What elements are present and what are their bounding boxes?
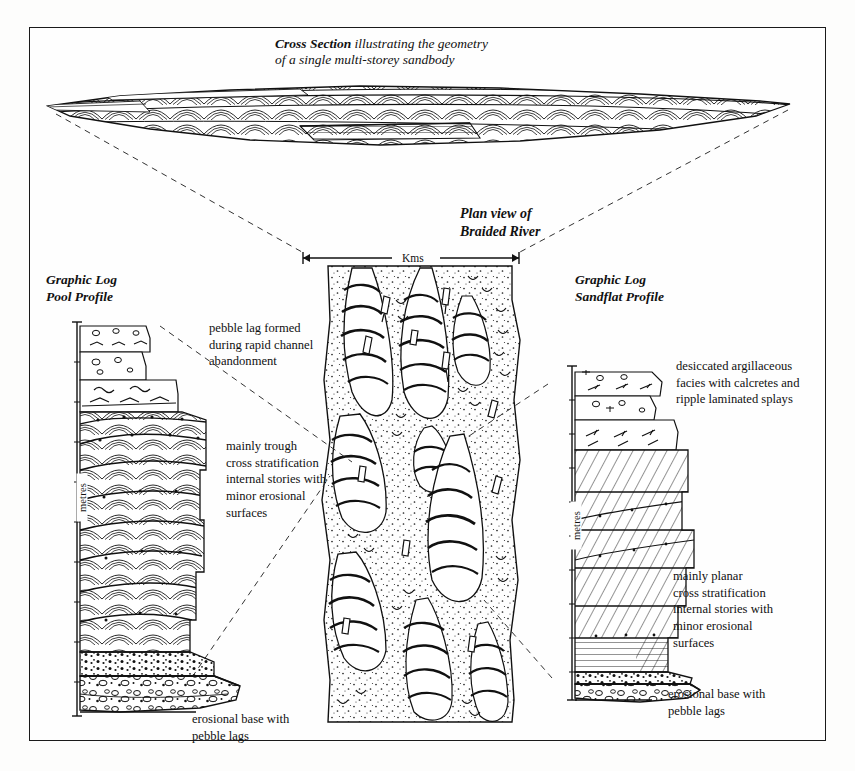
cross-section-title-line2: of a single multi-storey sandbody: [275, 52, 454, 67]
right-log-title: Graphic Log Sandflat Profile: [575, 272, 735, 306]
flow-symbol: [468, 636, 476, 652]
annotation-line: surfaces: [226, 506, 267, 520]
annotation-line: facies with calcretes and: [676, 376, 799, 390]
left-basal-conglomerate: [80, 676, 240, 712]
annotation-line: internal stories with: [226, 472, 326, 486]
flow-symbol: [402, 540, 410, 556]
left-log-title-line1: Graphic Log: [46, 272, 117, 287]
annotation-line: erosional base with: [192, 712, 289, 726]
annotation-left-erosional-base: erosional base with pebble lags: [192, 711, 352, 744]
figure-canvas: Cross Section illustrating the geometry …: [0, 0, 855, 771]
annotation-trough-cross-stratification: mainly trough cross stratification inter…: [226, 438, 361, 522]
right-log-title-line2: Sandflat Profile: [575, 289, 664, 304]
annotation-desiccated-argillaceous: desiccated argillaceous facies with calc…: [676, 358, 846, 408]
annotation-line: mainly planar: [673, 569, 743, 583]
annotation-line: pebble lag formed: [209, 321, 301, 335]
flow-symbol: [410, 330, 418, 345]
annotation-line: surfaces: [673, 636, 714, 650]
cross-section-title-emphasis: Cross Section: [275, 36, 351, 51]
cross-section-sandbody: [40, 84, 800, 148]
annotation-line: desiccated argillaceous: [676, 359, 792, 373]
annotation-right-erosional-base: erosional base with pebble lags: [668, 686, 828, 719]
annotation-line: minor erosional: [673, 619, 752, 633]
annotation-line: abandonment: [209, 354, 277, 368]
annotation-line: internal stories with: [673, 602, 773, 616]
left-graphic-log: [72, 322, 240, 716]
left-log-title-line2: Pool Profile: [46, 289, 113, 304]
annotation-planar-cross-stratification: mainly planar cross stratification inter…: [673, 568, 823, 652]
plan-view-title: Plan view of Braided River: [460, 205, 620, 240]
plan-view-title-line2: Braided River: [460, 224, 541, 239]
left-trough-cross-stratification: [78, 410, 210, 654]
annotation-line: during rapid channel: [209, 338, 313, 352]
left-log-axis-label: metres: [77, 474, 88, 522]
right-log-title-line1: Graphic Log: [575, 272, 646, 287]
scale-bar-label: Kms: [398, 252, 428, 264]
annotation-line: minor erosional: [226, 489, 305, 503]
annotation-line: mainly trough: [226, 439, 297, 453]
right-log-axis-label: metres: [571, 502, 582, 550]
plan-view-title-line1: Plan view of: [460, 206, 532, 221]
annotation-pebble-lag: pebble lag formed during rapid channel a…: [209, 320, 359, 370]
annotation-line: cross stratification: [673, 586, 766, 600]
left-log-title: Graphic Log Pool Profile: [46, 272, 186, 306]
annotation-line: pebble lags: [192, 729, 249, 743]
annotation-line: cross stratification: [226, 456, 319, 470]
annotation-line: erosional base with: [668, 687, 765, 701]
annotation-line: ripple laminated splays: [676, 392, 793, 406]
flow-symbol: [342, 618, 350, 634]
annotation-line: pebble lags: [668, 704, 725, 718]
cross-section-title: Cross Section illustrating the geometry …: [275, 36, 605, 69]
cross-section-title-rest: illustrating the geometry: [351, 36, 488, 51]
